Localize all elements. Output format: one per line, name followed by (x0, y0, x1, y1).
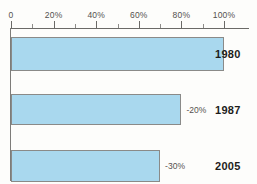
bar-value-label-2005: -30% (165, 161, 185, 171)
bar-value-label-1987: -20% (186, 105, 206, 115)
table-row: 1980 (0, 37, 257, 71)
bar-category-label-1987: 1987 (215, 104, 241, 116)
plot-area: 1980 -20% 1987 -30% 2005 (0, 0, 257, 184)
bar-category-label-2005: 2005 (215, 160, 241, 172)
bar-2005 (11, 150, 160, 182)
bar-category-label-1980: 1980 (215, 48, 241, 60)
bar-chart: 0 20% 40% 60% 80% 100% 1980 -20% 1987 (0, 0, 257, 184)
table-row: -30% 2005 (0, 150, 257, 182)
table-row: -20% 1987 (0, 94, 257, 125)
bar-1980 (11, 37, 224, 71)
bar-1987 (11, 94, 181, 125)
